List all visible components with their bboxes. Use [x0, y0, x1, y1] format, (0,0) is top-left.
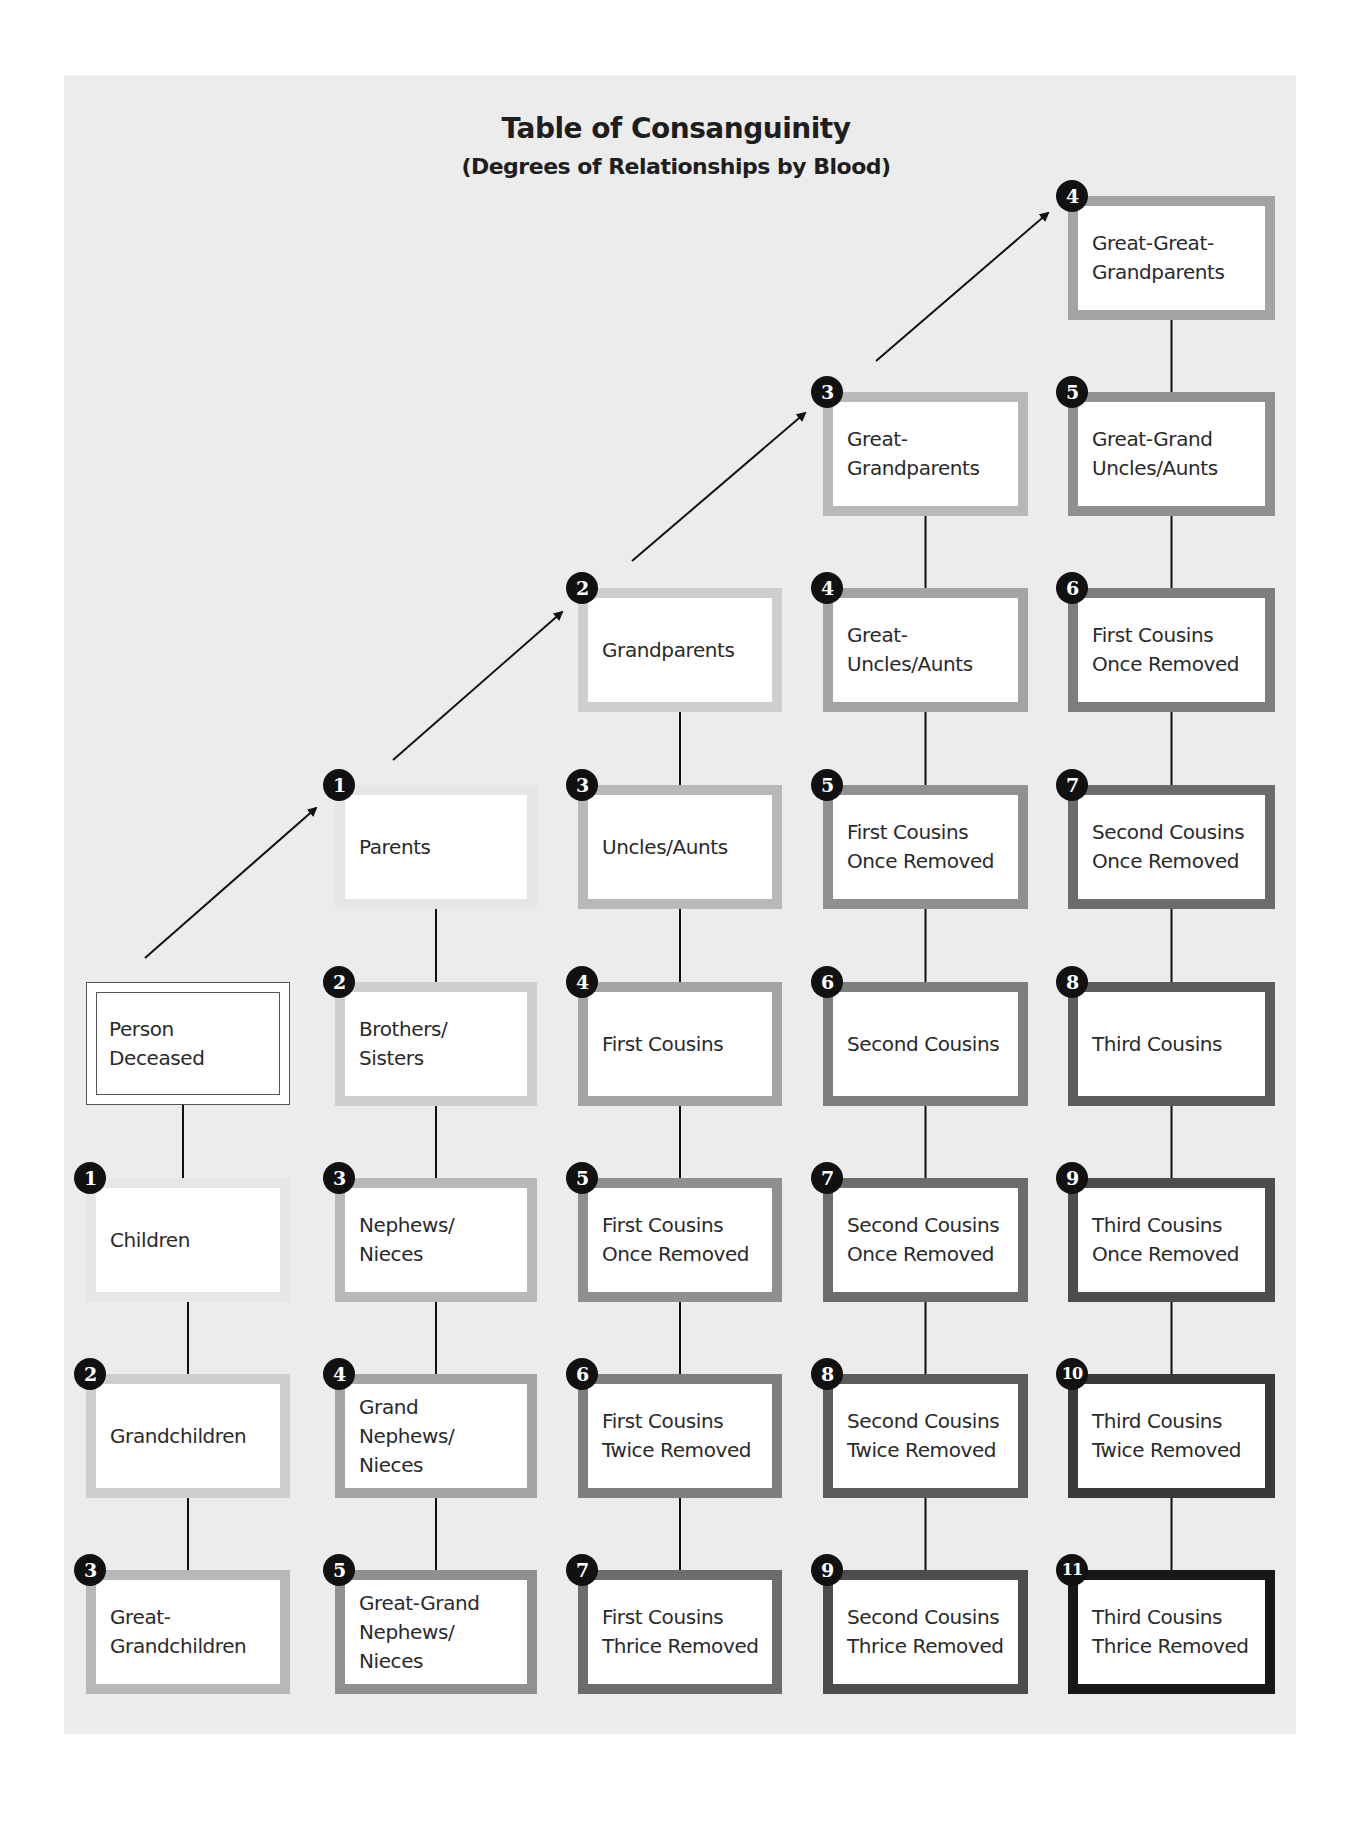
relationship-box: Grandchildren	[86, 1374, 290, 1498]
degree-badge: 11	[1056, 1554, 1088, 1586]
relationship-box: First Cousins Thrice Removed	[578, 1570, 782, 1694]
degree-badge: 4	[811, 572, 843, 604]
relationship-box: Second Cousins Thrice Removed	[823, 1570, 1028, 1694]
relationship-box: Second Cousins Once Removed	[823, 1178, 1028, 1302]
degree-badge: 2	[323, 966, 355, 998]
degree-badge: 4	[1056, 180, 1088, 212]
degree-badge: 3	[323, 1162, 355, 1194]
relationship-box: Brothers/ Sisters	[335, 982, 537, 1106]
degree-badge: 8	[1056, 966, 1088, 998]
relationship-label: Grandparents	[602, 636, 735, 665]
relationship-box: Third Cousins	[1068, 982, 1275, 1106]
degree-badge: 5	[323, 1554, 355, 1586]
degree-badge: 10	[1056, 1358, 1088, 1390]
relationship-box: Parents	[335, 785, 537, 909]
degree-badge: 3	[566, 769, 598, 801]
relationship-box: Third Cousins Thrice Removed	[1068, 1570, 1275, 1694]
relationship-box: Grand Nephews/ Nieces	[335, 1374, 537, 1498]
relationship-box: First Cousins Once Removed	[823, 785, 1028, 909]
relationship-box: First Cousins Once Removed	[1068, 588, 1275, 712]
relationship-label: First Cousins Once Removed	[1092, 621, 1239, 679]
relationship-box: Great-Grand Uncles/Aunts	[1068, 392, 1275, 516]
relationship-label: Third Cousins Twice Removed	[1092, 1407, 1241, 1465]
relationship-box: Grandparents	[578, 588, 782, 712]
relationship-box: Second Cousins Twice Removed	[823, 1374, 1028, 1498]
degree-badge: 5	[811, 769, 843, 801]
relationship-box: First Cousins Twice Removed	[578, 1374, 782, 1498]
relationship-box: Second Cousins	[823, 982, 1028, 1106]
degree-badge: 7	[566, 1554, 598, 1586]
degree-badge: 3	[74, 1554, 106, 1586]
relationship-box: Children	[86, 1178, 290, 1302]
degree-badge: 3	[811, 376, 843, 408]
relationship-box: Second Cousins Once Removed	[1068, 785, 1275, 909]
degree-badge: 9	[1056, 1162, 1088, 1194]
relationship-label: Great- Grandchildren	[110, 1603, 246, 1661]
degree-badge: 6	[566, 1358, 598, 1390]
relationship-label: Great-Great- Grandparents	[1092, 229, 1225, 287]
relationship-label: Grandchildren	[110, 1422, 246, 1451]
degree-badge: 4	[323, 1358, 355, 1390]
arrow-to-great-great-grandparents	[876, 213, 1048, 361]
arrow-to-great-grandparents	[632, 413, 805, 561]
relationship-label: Second Cousins Once Removed	[847, 1211, 999, 1269]
relationship-label: Brothers/ Sisters	[359, 1015, 447, 1073]
relationship-box: First Cousins Once Removed	[578, 1178, 782, 1302]
degree-badge: 5	[566, 1162, 598, 1194]
degree-badge: 9	[811, 1554, 843, 1586]
relationship-label: Grand Nephews/ Nieces	[359, 1393, 454, 1480]
degree-badge: 8	[811, 1358, 843, 1390]
degree-badge: 6	[1056, 572, 1088, 604]
relationship-box: Great- Grandchildren	[86, 1570, 290, 1694]
relationship-label: Uncles/Aunts	[602, 833, 728, 862]
relationship-label: Second Cousins Once Removed	[1092, 818, 1244, 876]
degree-badge: 2	[74, 1358, 106, 1390]
degree-badge: 7	[811, 1162, 843, 1194]
degree-badge: 2	[566, 572, 598, 604]
degree-badge: 1	[323, 769, 355, 801]
relationship-box: Nephews/ Nieces	[335, 1178, 537, 1302]
relationship-label: Nephews/ Nieces	[359, 1211, 454, 1269]
degree-badge: 4	[566, 966, 598, 998]
relationship-box: Third Cousins Once Removed	[1068, 1178, 1275, 1302]
arrow-to-grandparents	[393, 612, 562, 760]
relationship-label: Great-Grand Nephews/ Nieces	[359, 1589, 480, 1676]
relationship-box: Uncles/Aunts	[578, 785, 782, 909]
relationship-label: Second Cousins Twice Removed	[847, 1407, 999, 1465]
relationship-label: Third Cousins Once Removed	[1092, 1211, 1239, 1269]
relationship-box: Great- Grandparents	[823, 392, 1028, 516]
degree-badge: 5	[1056, 376, 1088, 408]
relationship-label: First Cousins Thrice Removed	[602, 1603, 759, 1661]
person-deceased-box: Person Deceased	[86, 982, 290, 1105]
relationship-label: First Cousins Once Removed	[602, 1211, 749, 1269]
relationship-label: Great-Grand Uncles/Aunts	[1092, 425, 1218, 483]
relationship-box: Third Cousins Twice Removed	[1068, 1374, 1275, 1498]
relationship-label: Great- Uncles/Aunts	[847, 621, 973, 679]
degree-badge: 6	[811, 966, 843, 998]
relationship-label: Second Cousins	[847, 1030, 999, 1059]
degree-badge: 7	[1056, 769, 1088, 801]
relationship-label: First Cousins Once Removed	[847, 818, 994, 876]
relationship-label: Second Cousins Thrice Removed	[847, 1603, 1004, 1661]
relationship-label: First Cousins Twice Removed	[602, 1407, 751, 1465]
relationship-label: Third Cousins	[1092, 1030, 1222, 1059]
relationship-label: First Cousins	[602, 1030, 723, 1059]
relationship-box: Great-Grand Nephews/ Nieces	[335, 1570, 537, 1694]
arrow-to-parents	[145, 808, 316, 958]
relationship-label: Parents	[359, 833, 431, 862]
relationship-label: Children	[110, 1226, 190, 1255]
relationship-label: Great- Grandparents	[847, 425, 980, 483]
relationship-label: Third Cousins Thrice Removed	[1092, 1603, 1249, 1661]
relationship-box: Great- Uncles/Aunts	[823, 588, 1028, 712]
relationship-box: Great-Great- Grandparents	[1068, 196, 1275, 320]
person-deceased-label: Person Deceased	[109, 1015, 204, 1073]
relationship-box: First Cousins	[578, 982, 782, 1106]
degree-badge: 1	[74, 1162, 106, 1194]
